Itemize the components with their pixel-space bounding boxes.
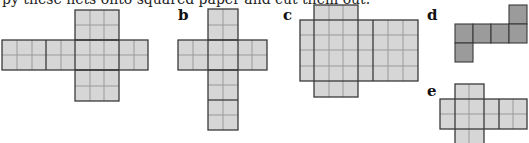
net-a <box>2 10 148 101</box>
net-b <box>178 9 267 130</box>
net-d <box>455 5 527 62</box>
net-e <box>440 84 527 143</box>
nets-diagram <box>0 0 529 143</box>
net-c <box>300 5 418 97</box>
